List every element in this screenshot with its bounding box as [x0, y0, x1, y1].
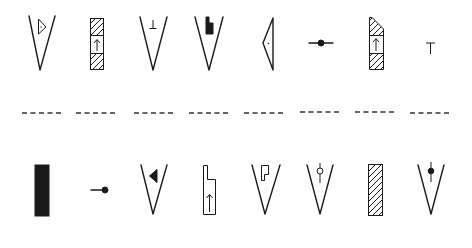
tapered-hatched-column-arrow-icon [370, 18, 384, 70]
tee-glyph-icon [426, 43, 435, 54]
v-with-triangle-icon [29, 16, 55, 70]
hatched-column-arrow-icon [91, 19, 104, 70]
v-with-filled-triangle-icon [141, 165, 167, 214]
bottom-row [35, 162, 444, 216]
v-with-open-circle-icon [307, 163, 333, 214]
v-with-filled-dot-icon [418, 162, 444, 214]
left-wedge-icon [263, 18, 273, 70]
solid-column-icon [35, 165, 49, 216]
hatched-column-icon [369, 165, 383, 216]
dashed-separator [22, 112, 451, 113]
v-with-filled-notch-icon [195, 17, 223, 70]
v-with-p-block-icon [252, 165, 280, 214]
line-end-dot-icon [91, 187, 108, 193]
line-dot-icon [309, 40, 333, 46]
symbol-legend-diagram [0, 0, 472, 248]
stepped-column-arrow-icon [204, 166, 216, 215]
top-row [29, 16, 435, 70]
v-with-tee-icon [140, 17, 167, 70]
